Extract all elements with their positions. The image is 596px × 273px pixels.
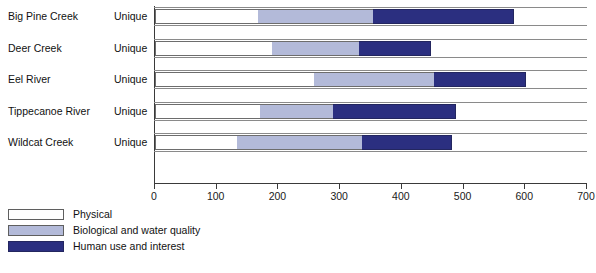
row-category-label: Tippecanoe River: [8, 105, 90, 117]
x-axis-tick: [339, 184, 340, 189]
x-axis-tick: [524, 184, 525, 189]
row-annotation-unique: Unique: [114, 42, 147, 54]
bar-segment-1: [155, 41, 272, 56]
legend-item: Physical: [8, 207, 200, 221]
x-axis-line: [154, 183, 587, 184]
x-axis-tick: [277, 184, 278, 189]
row-category-label: Eel River: [8, 73, 51, 85]
chart-row: Tippecanoe RiverUnique: [0, 97, 596, 127]
bar-segment-2: [314, 72, 434, 87]
row-annotation-unique: Unique: [114, 136, 147, 148]
stacked-bar: [155, 135, 452, 150]
chart-row: Wildcat CreekUnique: [0, 128, 596, 158]
x-axis-tick-label: 300: [330, 190, 348, 202]
stacked-bar: [155, 72, 526, 87]
stacked-bar: [155, 9, 514, 24]
x-axis-tick-label: 100: [207, 190, 225, 202]
stacked-bar: [155, 41, 431, 56]
row-rule-bottom: [154, 88, 587, 89]
row-rule-bottom: [154, 120, 587, 121]
chart-row: Deer CreekUnique: [0, 34, 596, 64]
bar-segment-1: [155, 135, 237, 150]
bar-segment-2: [272, 41, 359, 56]
x-axis-tick-label: 600: [516, 190, 534, 202]
row-rule-top: [154, 70, 587, 71]
x-axis-tick-label: 700: [577, 190, 595, 202]
legend-swatch: [8, 241, 64, 252]
x-axis-tick: [154, 184, 155, 189]
legend-label: Biological and water quality: [73, 224, 200, 236]
bar-segment-1: [155, 9, 258, 24]
x-axis-tick-label: 500: [454, 190, 472, 202]
row-category-label: Deer Creek: [8, 42, 62, 54]
row-rule-top: [154, 7, 587, 8]
bar-segment-2: [258, 9, 373, 24]
x-axis-tick-label: 400: [392, 190, 410, 202]
chart-row: Eel RiverUnique: [0, 65, 596, 95]
legend-item: Biological and water quality: [8, 223, 200, 237]
row-rule-top: [154, 102, 587, 103]
bar-segment-3: [373, 9, 514, 24]
x-axis-tick-label: 0: [151, 190, 157, 202]
row-annotation-unique: Unique: [114, 10, 147, 22]
x-axis-tick: [401, 184, 402, 189]
row-rule-top: [154, 39, 587, 40]
bar-segment-3: [434, 72, 526, 87]
legend-swatch: [8, 209, 64, 220]
row-rule-bottom: [154, 151, 587, 152]
x-axis-tick-label: 200: [269, 190, 287, 202]
bar-segment-2: [260, 104, 333, 119]
legend-label: Physical: [73, 208, 112, 220]
row-rule-top: [154, 133, 587, 134]
bar-segment-3: [359, 41, 431, 56]
chart-row: Big Pine CreekUnique: [0, 2, 596, 32]
stacked-bar-chart: Big Pine CreekUniqueDeer CreekUniqueEel …: [0, 0, 596, 273]
x-axis-tick: [586, 184, 587, 189]
bar-segment-3: [362, 135, 452, 150]
bar-segment-2: [237, 135, 362, 150]
bar-segment-1: [155, 72, 314, 87]
chart-legend: PhysicalBiological and water qualityHuma…: [8, 207, 200, 255]
row-annotation-unique: Unique: [114, 105, 147, 117]
row-rule-bottom: [154, 57, 587, 58]
legend-swatch: [8, 225, 64, 236]
legend-item: Human use and interest: [8, 239, 200, 253]
x-axis-tick: [463, 184, 464, 189]
row-category-label: Big Pine Creek: [8, 10, 78, 22]
row-rule-bottom: [154, 25, 587, 26]
x-axis-tick: [216, 184, 217, 189]
row-annotation-unique: Unique: [114, 73, 147, 85]
bar-segment-3: [333, 104, 456, 119]
bar-segment-1: [155, 104, 260, 119]
row-category-label: Wildcat Creek: [8, 136, 73, 148]
legend-label: Human use and interest: [73, 240, 184, 252]
stacked-bar: [155, 104, 456, 119]
